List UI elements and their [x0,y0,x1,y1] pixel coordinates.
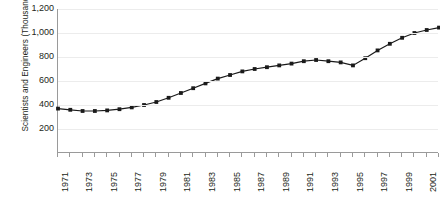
x-axis-tick [303,153,304,157]
x-axis-tick [180,153,181,157]
x-axis-tick [352,153,353,157]
data-point-marker [425,28,429,32]
x-axis-tick [94,153,95,157]
y-axis-tick-label: 1,200 [14,4,54,13]
x-axis-tick [82,153,83,157]
x-axis-tick-label: 1999 [405,172,414,192]
data-point-marker [228,73,232,77]
data-point-marker [326,59,330,63]
x-axis-tick-label: 1985 [233,172,242,192]
y-axis-tick-label: 400 [14,100,54,109]
data-point-marker [253,67,257,71]
data-point-marker [204,82,208,86]
x-axis-tick [389,153,390,157]
data-point-marker [154,100,158,104]
data-point-marker [216,77,220,81]
gridline [58,105,438,106]
x-axis-tick [57,153,58,157]
y-axis-tick-label: 1,000 [14,28,54,37]
x-axis-tick-label: 1983 [208,172,217,192]
x-axis-tick [426,153,427,157]
data-point-marker [56,107,60,111]
plot-area [57,9,438,153]
x-axis-tick [217,153,218,157]
x-axis-tick-label: 1997 [380,172,389,192]
x-axis-tick [205,153,206,157]
x-axis-tick-label: 1981 [183,172,192,192]
data-point-marker [118,107,122,111]
y-axis-tick-labels: 2004006008001,0001,200 [8,0,54,215]
data-point-marker [191,86,195,90]
y-axis-tick-label: 200 [14,124,54,133]
data-point-marker [290,62,294,66]
x-axis-tick [413,153,414,157]
gridline [58,81,438,82]
x-axis-tick [241,153,242,157]
x-axis-tick-label: 1987 [257,172,266,192]
data-point-marker [265,65,269,69]
x-axis-tick [143,153,144,157]
data-point-marker [376,49,380,53]
x-axis-tick [327,153,328,157]
x-axis-tick [131,153,132,157]
x-axis-tick [229,153,230,157]
x-axis-tick [377,153,378,157]
x-axis-tick [106,153,107,157]
data-point-marker [314,58,318,62]
data-point-marker [68,108,72,112]
x-axis-tick [168,153,169,157]
x-axis-tick [254,153,255,157]
x-axis-tick-label: 1991 [306,172,315,192]
x-axis-tick [438,153,439,157]
data-point-marker [277,64,281,68]
gridline [58,33,438,34]
data-point-marker [351,64,355,68]
x-axis-tick-label: 1995 [356,172,365,192]
x-axis-tick [266,153,267,157]
x-axis-tick [192,153,193,157]
series-line [58,28,439,111]
x-axis-tick [119,153,120,157]
data-point-marker [167,96,171,100]
x-axis-tick [340,153,341,157]
x-axis-tick-label: 1971 [61,172,70,192]
line-chart: Scientists and Engineers (Thousands) 200… [0,0,440,215]
x-axis-tick [401,153,402,157]
gridline [58,57,438,58]
y-axis-tick-label: 800 [14,52,54,61]
data-point-marker [105,109,109,113]
x-axis-tick [278,153,279,157]
data-point-marker [240,70,244,74]
data-point-marker [93,109,97,113]
data-point-marker [130,106,134,110]
gridline [58,129,438,130]
x-axis-tick [291,153,292,157]
data-point-marker [81,109,85,113]
x-axis-tick-label: 1979 [159,172,168,192]
data-point-marker [302,59,306,63]
data-point-marker [339,61,343,65]
x-axis-tick-label: 2001 [429,172,438,192]
x-axis-tick-label: 1975 [110,172,119,192]
data-point-marker [179,91,183,95]
gridline [58,9,438,10]
x-axis-tick-label: 1973 [85,172,94,192]
x-axis-tick [155,153,156,157]
x-axis-tick-label: 1977 [134,172,143,192]
y-axis-tick-label: 600 [14,76,54,85]
x-axis-tick [364,153,365,157]
x-axis-tick-labels: 1971197319751977197919811983198519871989… [57,158,438,215]
data-point-marker [388,42,392,46]
x-axis-tick [69,153,70,157]
x-axis-tick-label: 1989 [282,172,291,192]
x-axis-tick [315,153,316,157]
x-axis-tick-label: 1993 [331,172,340,192]
data-point-marker [400,36,404,40]
series-markers [56,26,440,113]
